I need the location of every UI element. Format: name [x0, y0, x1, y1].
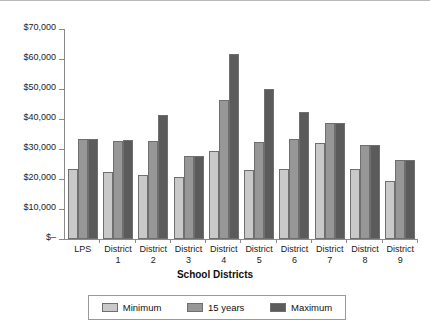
bar: [68, 169, 78, 240]
bar: [174, 177, 184, 239]
x-axis-tick-label-line2: 6: [277, 255, 312, 266]
x-axis-tick-label: District8: [347, 244, 382, 266]
bar-group: [65, 29, 100, 239]
bar-group-bars: [65, 29, 100, 239]
bar-group-bars: [136, 29, 171, 239]
y-axis-tick-mark: [59, 209, 64, 210]
y-axis-tick-label: $40,000: [23, 112, 56, 122]
y-axis-tick-label: $10,000: [23, 202, 56, 212]
legend-item-label: 15 years: [208, 302, 244, 313]
y-axis-tick-mark: [59, 179, 64, 180]
x-axis-tick-mark: [135, 239, 136, 243]
x-axis-tick-label-line1: District: [210, 244, 238, 254]
y-axis-tick-mark: [59, 59, 64, 60]
x-axis-tick-mark: [346, 239, 347, 243]
legend-swatch-icon: [270, 303, 286, 312]
bar: [123, 140, 133, 239]
bar-group: [383, 29, 418, 239]
x-axis-tick-label-line2: 4: [206, 255, 241, 266]
bar: [335, 123, 345, 239]
bar: [103, 172, 113, 239]
bar: [148, 141, 158, 239]
bar: [194, 156, 204, 239]
bar: [299, 112, 309, 239]
x-axis-tick-label-line1: District: [316, 244, 344, 254]
x-axis-tick-label-line2: 9: [383, 255, 418, 266]
bar-group-bars: [171, 29, 206, 239]
bar: [385, 181, 395, 239]
legend-item[interactable]: Maximum: [270, 302, 332, 313]
bar: [138, 175, 148, 239]
bar: [405, 160, 415, 239]
legend-swatch-icon: [187, 303, 203, 312]
bar: [184, 156, 194, 239]
x-axis-tick-labels: LPSDistrict1District2District3District4D…: [65, 244, 418, 266]
bar-group: [312, 29, 347, 239]
bar: [158, 115, 168, 239]
bar: [229, 54, 239, 239]
bar-group-bars: [100, 29, 135, 239]
y-axis-tick-label: $20,000: [23, 172, 56, 182]
y-axis-tick-label: $70,000: [23, 22, 56, 32]
legend-item[interactable]: 15 years: [187, 302, 244, 313]
x-axis-tick-label-line1: District: [351, 244, 379, 254]
bar: [350, 169, 360, 239]
x-axis-tick-label: District5: [241, 244, 276, 266]
bar-group: [206, 29, 241, 239]
x-axis-tick-label-line1: LPS: [74, 244, 91, 254]
bar: [88, 139, 98, 239]
x-axis-tick-label-line2: 2: [136, 255, 171, 266]
x-axis-tick-label-line2: 3: [171, 255, 206, 266]
bar: [325, 123, 335, 239]
x-axis-tick-label: District1: [100, 244, 135, 266]
y-axis-tick-mark: [59, 119, 64, 120]
x-axis-tick-mark: [311, 239, 312, 243]
x-axis-tick-label: LPS: [65, 244, 100, 266]
bar-chart-figure: $–$10,000$20,000$30,000$40,000$50,000$60…: [0, 0, 430, 334]
bar: [113, 141, 123, 239]
bar: [289, 139, 299, 239]
bar-group-bars: [241, 29, 276, 239]
x-axis-tick-mark: [170, 239, 171, 243]
bar: [78, 139, 88, 239]
x-axis-tick-mark: [205, 239, 206, 243]
x-axis-tick-label: District7: [312, 244, 347, 266]
y-axis-tick-mark: [59, 29, 64, 30]
x-axis-tick-label-line1: District: [281, 244, 309, 254]
bar-group-bars: [312, 29, 347, 239]
x-axis-tick-label-line1: District: [104, 244, 132, 254]
legend-item[interactable]: Minimum: [102, 302, 162, 313]
x-axis-tick-mark: [276, 239, 277, 243]
bar: [209, 151, 219, 240]
plot-area: $–$10,000$20,000$30,000$40,000$50,000$60…: [64, 29, 418, 239]
x-axis-tick-label-line1: District: [245, 244, 273, 254]
bar-group: [171, 29, 206, 239]
bar: [395, 160, 405, 239]
x-axis-tick-label: District4: [206, 244, 241, 266]
x-axis-tick-mark: [240, 239, 241, 243]
bar-groups: [65, 29, 418, 239]
x-axis-tick-label-line2: 7: [312, 255, 347, 266]
bar-group: [241, 29, 276, 239]
x-axis-tick-label: District3: [171, 244, 206, 266]
x-axis-tick-label-line2: 8: [347, 255, 382, 266]
bar: [254, 142, 264, 240]
y-axis-tick-mark: [59, 89, 64, 90]
x-axis-tick-label-line2: 1: [100, 255, 135, 266]
x-axis-tick-label-line1: District: [175, 244, 203, 254]
x-axis-title: School Districts: [0, 269, 430, 280]
x-axis-tick-label-line1: District: [139, 244, 167, 254]
bar: [219, 100, 229, 240]
bar-group: [100, 29, 135, 239]
x-axis-tick-mark: [99, 239, 100, 243]
y-axis-tick-label: $50,000: [23, 82, 56, 92]
y-axis-tick-label: $30,000: [23, 142, 56, 152]
bar-group-bars: [206, 29, 241, 239]
bar-group: [136, 29, 171, 239]
bar: [279, 169, 289, 239]
bar-group-bars: [277, 29, 312, 239]
x-axis-tick-label: District6: [277, 244, 312, 266]
y-axis-tick-label: $60,000: [23, 52, 56, 62]
bar-group-bars: [347, 29, 382, 239]
chart-legend: Minimum15 yearsMaximum: [88, 295, 346, 320]
